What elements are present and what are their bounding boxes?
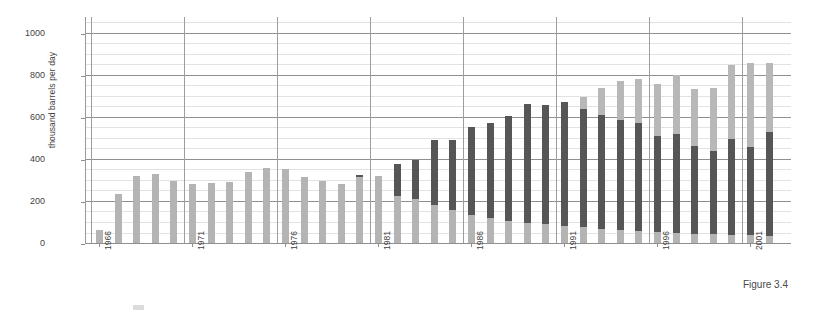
bar-segment-middle (561, 102, 568, 226)
bar-segment-upper (580, 97, 587, 109)
bar-group (561, 102, 568, 244)
bar-segment-middle (691, 146, 698, 234)
x-tick-mark (192, 244, 193, 247)
bar-segment-middle (542, 105, 549, 224)
x-tick-label: 1996 (661, 231, 671, 250)
plot-area (85, 17, 791, 244)
bar-segment-lower (375, 176, 382, 244)
x-tick-label: 1991 (568, 231, 578, 250)
bar-segment-middle (728, 139, 735, 235)
y-tick-label: 0 (5, 238, 45, 248)
bar-segment-upper (766, 63, 773, 131)
bar-segment-upper (673, 75, 680, 134)
legend-swatch (133, 305, 144, 310)
bar-segment-upper (691, 89, 698, 146)
bar-segment-upper (728, 65, 735, 140)
bar-group (766, 63, 773, 244)
x-tick-mark (99, 244, 100, 247)
bar-segment-lower (115, 194, 122, 244)
bar-group (635, 79, 642, 244)
bar-segment-upper (747, 63, 754, 147)
y-tick-label: 200 (5, 196, 45, 206)
bar-segment-lower (468, 215, 475, 244)
bar-group (375, 176, 382, 244)
bar-segment-lower (170, 181, 177, 244)
bar-segment-middle (654, 136, 661, 232)
bar-group (245, 172, 252, 245)
bar-segment-upper (654, 84, 661, 135)
bar-group (617, 81, 624, 244)
bar-segment-middle (524, 104, 531, 223)
bar-group (728, 65, 735, 244)
y-tick-label: 400 (5, 154, 45, 164)
bar-segment-middle (580, 109, 587, 227)
x-tick-label: 1986 (475, 231, 485, 250)
bar-segment-lower (505, 221, 512, 244)
x-tick-label: 1981 (382, 231, 392, 250)
x-tick-mark (657, 244, 658, 247)
x-tick-mark (378, 244, 379, 247)
figure-caption: Figure 3.4 (743, 279, 788, 290)
bar-segment-upper (598, 88, 605, 115)
bar-group (468, 127, 475, 244)
bar-segment-upper (635, 79, 642, 123)
x-tick-mark (564, 244, 565, 247)
bar-segment-middle (635, 123, 642, 231)
bar-segment-lower (561, 226, 568, 244)
bar-segment-lower (208, 183, 215, 244)
bar-segment-middle (431, 140, 438, 205)
bar-segment-lower (412, 199, 419, 244)
y-tick-label: 800 (5, 70, 45, 80)
bar-segment-lower (133, 176, 140, 244)
bars-layer (86, 17, 791, 244)
bar-group (189, 184, 196, 244)
bar-group (319, 181, 326, 244)
bar-segment-lower (282, 169, 289, 244)
bar-group (263, 168, 270, 244)
bar-segment-middle (710, 151, 717, 235)
bar-segment-lower (189, 184, 196, 244)
x-tick-label: 1971 (196, 231, 206, 250)
bar-segment-lower (226, 182, 233, 244)
bar-segment-lower (245, 172, 252, 245)
bar-segment-lower (338, 184, 345, 244)
bar-segment-middle (505, 116, 512, 221)
bar-group (226, 182, 233, 244)
bar-group (96, 230, 103, 244)
x-tick-label: 1976 (289, 231, 299, 250)
bar-group (673, 75, 680, 244)
bar-group (524, 104, 531, 244)
bar-segment-middle (747, 147, 754, 235)
bar-segment-middle (766, 132, 773, 236)
bar-group (431, 140, 438, 244)
bar-segment-middle (487, 123, 494, 218)
bar-group (710, 88, 717, 244)
bar-group (301, 177, 308, 244)
bar-group (542, 105, 549, 244)
bar-segment-middle (394, 164, 401, 196)
bar-segment-lower (394, 196, 401, 244)
bar-segment-lower (524, 223, 531, 244)
y-tick-mark (81, 244, 85, 245)
bar-group (356, 175, 363, 244)
bar-segment-lower (356, 177, 363, 244)
x-tick-mark (471, 244, 472, 247)
bar-group (115, 194, 122, 244)
bar-group (449, 140, 456, 244)
bar-group (133, 176, 140, 244)
x-tick-label: 1966 (103, 231, 113, 250)
x-tick-mark (750, 244, 751, 247)
bar-group (394, 164, 401, 244)
bar-group (152, 174, 159, 244)
bar-segment-middle (449, 140, 456, 210)
bar-segment-upper (710, 88, 717, 151)
bar-segment-lower (617, 230, 624, 244)
bar-group (505, 116, 512, 244)
bar-segment-lower (542, 224, 549, 244)
bar-group (412, 160, 419, 244)
x-tick-label: 2001 (754, 231, 764, 250)
bar-group (654, 84, 661, 244)
bar-segment-lower (431, 205, 438, 244)
bar-segment-lower (96, 230, 103, 244)
bar-segment-middle (598, 115, 605, 229)
